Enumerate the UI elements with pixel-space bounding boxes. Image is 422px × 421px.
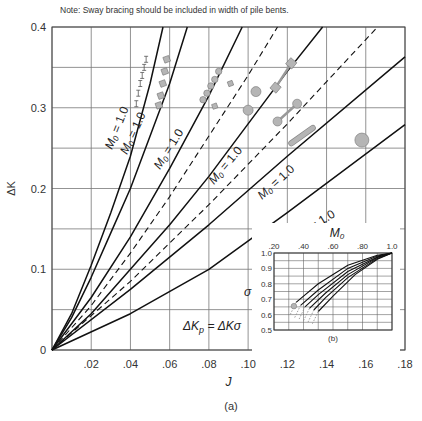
inset-y-tick: 0.9 (261, 264, 273, 273)
x-tick-label: .16 (358, 358, 373, 370)
inset-x-tick: .40 (298, 242, 310, 251)
curve-label: M0 = 1.0 (255, 162, 299, 203)
x-tick-label: .06 (162, 358, 177, 370)
x-tick-label: .10 (240, 358, 255, 370)
figure-caption-a: (a) (224, 400, 237, 412)
inset-caption: (b) (328, 334, 338, 343)
x-tick-label: .14 (319, 358, 334, 370)
inset-y-tick: 0.6 (261, 311, 273, 320)
curve-label: M0 = 1.0 (151, 126, 188, 172)
y-tick-label: 0.3 (31, 102, 46, 114)
inset-x-tick: .60 (327, 242, 339, 251)
x-tick-label: .02 (84, 358, 99, 370)
y-tick-label: 0.1 (31, 263, 46, 275)
inset-y-tick: 0.7 (261, 295, 273, 304)
inset-y-tick: 0.8 (261, 280, 273, 289)
inset-y-label: σ (244, 285, 252, 299)
curve-labels: M0 = 1.0M0 = 1.0M0 = 1.0M0 = 1.0M0 = 1.0… (102, 104, 339, 243)
inset-y-tick: 0.5 (261, 326, 273, 335)
x-tick-label: .08 (201, 358, 216, 370)
y-tick-label: 0 (40, 344, 46, 356)
x-axis: .02.04.06.08.10.12.14.16.18J (84, 358, 413, 389)
x-tick-label: .18 (397, 358, 412, 370)
x-tick-label: .04 (123, 358, 138, 370)
curve-label: M0 = 1.0 (206, 143, 247, 187)
y-tick-label: 0.4 (31, 21, 46, 33)
formula-annotation: ΔKp = ΔKσ (182, 319, 242, 335)
y-tick-label: 0.2 (31, 183, 46, 195)
y-axis-label: ΔK (5, 180, 17, 195)
x-axis-label: J (225, 375, 233, 389)
y-axis: 00.10.20.30.4ΔK (5, 21, 46, 356)
inset-chart-b: .20.40.60.801.01.00.90.80.70.60.5M0σ(b) (244, 223, 400, 352)
inset-x-tick: .80 (357, 242, 369, 251)
x-tick-label: .12 (280, 358, 295, 370)
main-chart: .02.04.06.08.10.12.14.16.18J00.10.20.30.… (0, 0, 422, 421)
inset-y-tick: 1.0 (261, 249, 273, 258)
inset-x-tick: 1.0 (386, 242, 398, 251)
